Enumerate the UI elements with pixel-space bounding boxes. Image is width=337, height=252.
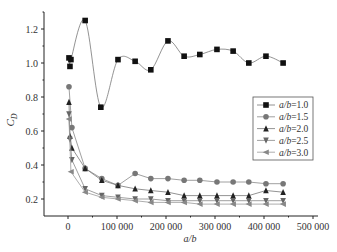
data-point: [69, 157, 75, 163]
legend-label: a/b=2.0: [279, 124, 309, 134]
data-point: [132, 59, 138, 65]
data-point: [82, 18, 88, 24]
legend-label: a/b=1.5: [279, 112, 309, 122]
series-line: [69, 114, 283, 201]
legend-marker-icon: [263, 114, 269, 120]
data-point: [132, 171, 138, 177]
legend-label: a/b=1.0: [279, 100, 309, 110]
y-tick-label: 0.2: [26, 194, 39, 205]
y-axis-label: CD: [4, 113, 19, 126]
x-tick-label: 400 000: [248, 221, 281, 232]
data-point: [263, 187, 269, 193]
legend-label: a/b=3.0: [279, 148, 309, 158]
data-point: [67, 64, 73, 70]
x-axis-label: a/b: [184, 233, 197, 244]
data-point: [246, 60, 252, 66]
x-tick-label: 300 000: [199, 221, 232, 232]
data-point: [280, 60, 286, 66]
data-point: [165, 176, 171, 182]
data-point: [197, 52, 203, 58]
data-point: [66, 84, 72, 90]
data-point: [197, 178, 203, 184]
legend-label: a/b=2.5: [279, 136, 309, 146]
y-tick-label: 0.8: [26, 92, 39, 103]
data-point: [246, 179, 252, 185]
series-a-b-1-0: [66, 18, 286, 110]
y-tick-label: 1.0: [26, 58, 39, 69]
legend-marker-icon: [263, 102, 269, 108]
y-tick-label: 1.2: [26, 24, 39, 35]
y-tick-label: 0.4: [26, 160, 39, 171]
data-point: [181, 53, 187, 59]
line-chart: 0100 000200 000300 000400 000500 0000.20…: [0, 0, 337, 252]
y-tick-label: 0.6: [26, 126, 39, 137]
series-line: [69, 87, 283, 186]
svg-text:CD: CD: [4, 113, 19, 126]
x-tick-label: 500 000: [297, 221, 330, 232]
data-point: [148, 176, 154, 182]
data-point: [230, 179, 236, 185]
data-point: [181, 178, 187, 184]
data-point: [263, 53, 269, 59]
series-line: [69, 119, 283, 204]
data-point: [214, 179, 220, 185]
data-point: [280, 181, 286, 187]
data-point: [148, 67, 154, 73]
legend: a/b=1.0a/b=1.5a/b=2.0a/b=2.5a/b=3.0: [253, 97, 313, 160]
data-point: [98, 104, 104, 110]
data-point: [214, 47, 220, 53]
data-point: [68, 57, 74, 63]
data-point: [165, 38, 171, 44]
x-tick-label: 0: [66, 221, 71, 232]
data-point: [115, 57, 121, 63]
data-point: [230, 48, 236, 54]
x-tick-label: 100 000: [101, 221, 134, 232]
data-point: [66, 99, 72, 105]
data-point: [263, 181, 269, 187]
x-tick-label: 200 000: [150, 221, 183, 232]
